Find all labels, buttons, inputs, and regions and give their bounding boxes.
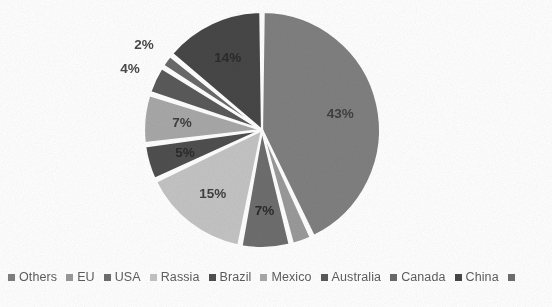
legend-item-label: Mexico bbox=[271, 270, 311, 284]
legend-item-label: USA bbox=[115, 270, 141, 284]
legend-item[interactable]: EU bbox=[66, 270, 95, 284]
legend-swatch-icon bbox=[390, 274, 397, 281]
legend-swatch-icon bbox=[150, 274, 157, 281]
pie-slice-label: 43% bbox=[327, 106, 354, 121]
legend-swatch-icon bbox=[508, 274, 515, 281]
legend-swatch-icon bbox=[104, 274, 111, 281]
legend-item[interactable]: USA bbox=[104, 270, 141, 284]
pie-slice-label: 5% bbox=[175, 145, 195, 160]
pie-chart: 43%3%7%15%5%7%4%2%14% OthersEUUSARassiaB… bbox=[0, 0, 552, 307]
legend-item[interactable]: Mexico bbox=[260, 270, 311, 284]
pie-slice-label: 14% bbox=[214, 50, 241, 65]
legend-swatch-icon bbox=[260, 274, 267, 281]
pie-slice-label: 7% bbox=[172, 115, 192, 130]
legend-item[interactable]: China bbox=[455, 270, 499, 284]
legend-item[interactable] bbox=[508, 274, 519, 281]
legend-item[interactable]: Australia bbox=[321, 270, 382, 284]
pie-slice-label: 4% bbox=[120, 61, 140, 76]
pie-svg: 43%3%7%15%5%7%4%2%14% bbox=[0, 0, 552, 258]
pie-slice-label: 2% bbox=[134, 37, 154, 52]
pie-plot-area: 43%3%7%15%5%7%4%2%14% bbox=[0, 0, 552, 258]
legend-swatch-icon bbox=[321, 274, 328, 281]
legend-item[interactable]: Rassia bbox=[150, 270, 200, 284]
legend-item-label: Australia bbox=[332, 270, 382, 284]
legend-item[interactable]: Others bbox=[8, 270, 57, 284]
legend-item-label: Canada bbox=[401, 270, 445, 284]
legend-swatch-icon bbox=[455, 274, 462, 281]
legend-item-label: Rassia bbox=[161, 270, 200, 284]
legend-item-label: Others bbox=[19, 270, 57, 284]
legend-item[interactable]: Brazil bbox=[209, 270, 252, 284]
legend-swatch-icon bbox=[209, 274, 216, 281]
legend-item[interactable]: Canada bbox=[390, 270, 445, 284]
pie-slice-label: 15% bbox=[199, 186, 226, 201]
legend-item-label: EU bbox=[77, 270, 95, 284]
legend-swatch-icon bbox=[8, 274, 15, 281]
legend-swatch-icon bbox=[66, 274, 73, 281]
pie-slice-label: 7% bbox=[255, 203, 275, 218]
legend-item-label: China bbox=[466, 270, 499, 284]
chart-legend: OthersEUUSARassiaBrazilMexicoAustraliaCa… bbox=[0, 262, 552, 292]
legend-item-label: Brazil bbox=[220, 270, 252, 284]
